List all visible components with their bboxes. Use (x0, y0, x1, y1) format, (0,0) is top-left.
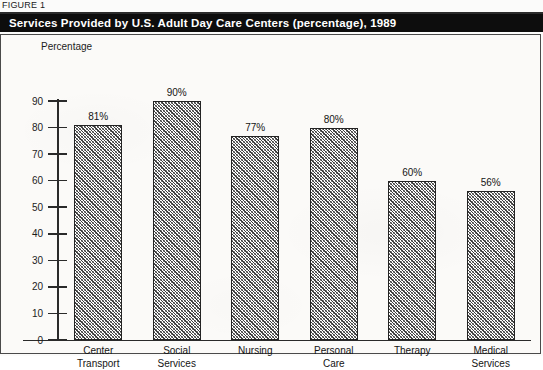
bar-value-label: 90% (147, 87, 207, 98)
bar (310, 128, 358, 340)
y-axis-tick-mark (48, 180, 67, 182)
chart-title-bar: Services Provided by U.S. Adult Day Care… (0, 14, 543, 32)
y-axis-tick-label: 0 (11, 334, 43, 347)
bar-value-label: 81% (68, 111, 128, 122)
y-axis-tick-mark (48, 100, 67, 102)
y-axis-tick-mark (48, 286, 67, 288)
x-axis-category-label: Social Services (137, 345, 217, 370)
y-axis-tick-label: 80 (11, 121, 43, 134)
bar-value-label: 60% (382, 167, 442, 178)
bar-value-label: 77% (225, 122, 285, 133)
y-axis-tick-mark (48, 233, 67, 235)
x-axis-category-label: Center Transport (58, 345, 138, 370)
bar (231, 136, 279, 340)
y-axis-tick-label: 10 (11, 307, 43, 320)
y-axis-line (57, 99, 59, 341)
bar (467, 191, 515, 340)
y-axis-tick-mark (48, 260, 67, 262)
chart-title: Services Provided by U.S. Adult Day Care… (0, 17, 396, 29)
figure-label: FIGURE 1 (2, 0, 45, 10)
bar (153, 101, 201, 340)
x-axis-category-label: Medical Services (451, 345, 531, 370)
y-axis-tick-label: 70 (11, 148, 43, 161)
y-axis-title: Percentage (41, 41, 92, 52)
y-axis-tick-mark (48, 313, 67, 315)
y-axis-tick-label: 60 (11, 174, 43, 187)
chart-frame: Percentage 9080706050403020100 81%90%77%… (0, 34, 541, 354)
y-axis-tick-label: 90 (11, 95, 43, 108)
bar-value-label: 56% (461, 177, 521, 188)
bar-value-label: 80% (304, 114, 364, 125)
y-axis-tick-label: 20 (11, 280, 43, 293)
bar (74, 125, 122, 340)
y-axis-tick-label: 30 (11, 254, 43, 267)
y-axis-tick-mark (48, 127, 67, 129)
y-axis-tick-mark (48, 153, 67, 155)
bar (388, 181, 436, 340)
y-axis-tick-mark (48, 339, 67, 341)
x-axis-category-label: Personal Care (294, 345, 374, 370)
y-axis-tick-label: 50 (11, 201, 43, 214)
y-axis-tick-label: 40 (11, 227, 43, 240)
x-axis-category-label: Therapy (372, 345, 452, 358)
y-axis-tick-mark (48, 206, 67, 208)
x-axis-category-label: Nursing (215, 345, 295, 358)
